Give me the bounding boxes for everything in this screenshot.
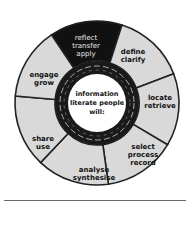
center-line-1: information bbox=[67, 90, 127, 99]
segment-label-share: share use bbox=[32, 135, 54, 151]
segment-label-engage: engage grow bbox=[29, 71, 58, 87]
label-line: locate bbox=[144, 94, 175, 102]
label-line: engage bbox=[29, 71, 58, 79]
divider-line bbox=[4, 200, 186, 201]
segment-label-select: select process record bbox=[128, 143, 159, 167]
label-line: record bbox=[128, 159, 159, 167]
label-line: apply bbox=[72, 50, 100, 58]
label-line: retrieve bbox=[144, 102, 175, 110]
label-line: select bbox=[128, 143, 159, 151]
label-line: clarify bbox=[121, 56, 146, 64]
label-line: define bbox=[121, 48, 146, 56]
segment-label-define: define clarify bbox=[121, 48, 146, 64]
segment-label-analyse: analyse synthesise bbox=[73, 166, 115, 182]
center-line-3: will: bbox=[67, 108, 127, 117]
center-line-2: literate people bbox=[67, 99, 127, 108]
label-line: synthesise bbox=[73, 174, 115, 182]
segment-label-reflect: reflect transfer apply bbox=[72, 34, 100, 58]
center-text: information literate people will: bbox=[67, 90, 127, 117]
label-line: use bbox=[32, 143, 54, 151]
label-line: grow bbox=[29, 79, 58, 87]
label-line: share bbox=[32, 135, 54, 143]
label-line: process bbox=[128, 151, 159, 159]
label-line: transfer bbox=[72, 42, 100, 50]
label-line: reflect bbox=[72, 34, 100, 42]
label-line: analyse bbox=[73, 166, 115, 174]
segment-label-locate: locate retrieve bbox=[144, 94, 175, 110]
